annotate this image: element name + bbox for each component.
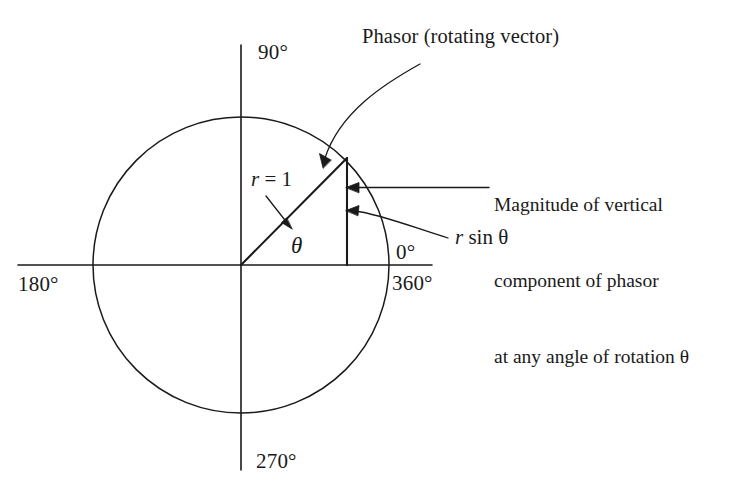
phasor-leader-curve [325,64,420,158]
magnitude-callout-block: Magnitude of vertical component of phaso… [494,141,689,420]
radius-label: r = 1 [251,167,292,193]
magnitude-callout-line-1: Magnitude of vertical [494,192,689,217]
phasor-callout-label: Phasor (rotating vector) [362,24,559,49]
axis-label-180: 180° [18,272,59,298]
angle-theta-label: θ [291,232,302,260]
r-sin-theta-expression: sin θ [463,225,508,249]
axis-label-0: 0° [396,240,415,266]
radius-equation: = 1 [259,167,292,191]
r-sin-theta-label: r sin θ [455,225,508,251]
radius-leader-arrowhead [282,218,293,229]
axis-label-360: 360° [392,271,433,297]
radius-variable: r [251,167,259,191]
phasor-diagram-figure: 90° 180° 0° 360° 270° Phasor (rotating v… [0,0,742,502]
magnitude-callout-line-3: at any angle of rotation θ [494,344,689,369]
axis-label-90: 90° [258,40,288,66]
r-sin-theta-variable: r [455,225,463,249]
rsintheta-leader-curve [355,211,448,238]
axis-label-270: 270° [256,449,297,475]
magnitude-callout-line-2: component of phasor [494,268,689,293]
